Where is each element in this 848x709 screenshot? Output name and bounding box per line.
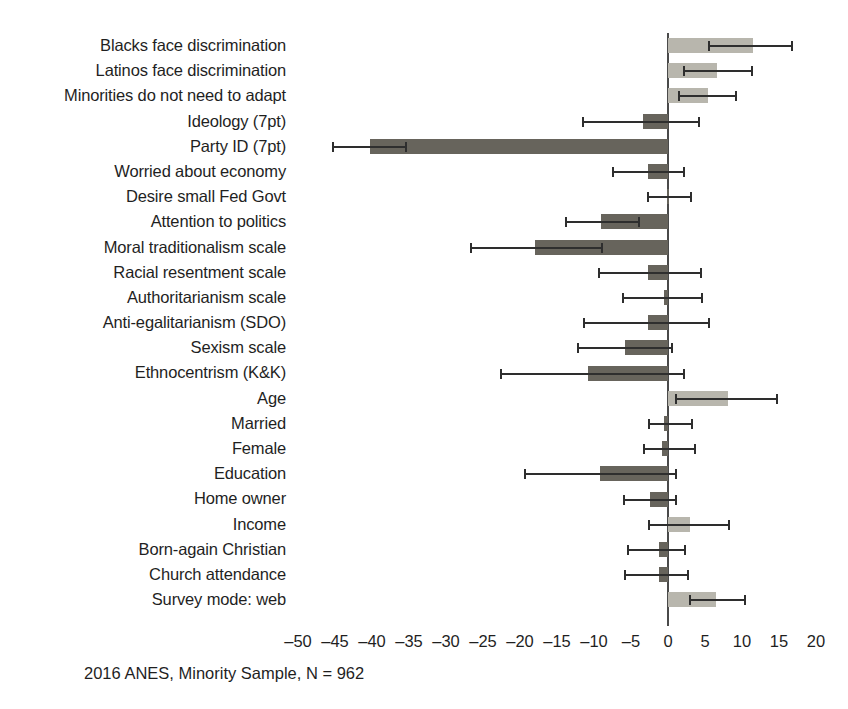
error-bar-cap-high (700, 268, 702, 278)
bar-row (292, 184, 848, 209)
category-label: Ethnocentrism (K&K) (0, 360, 292, 385)
error-bar-cap-high (776, 394, 778, 404)
bar-row (292, 461, 848, 486)
bar (370, 139, 668, 154)
error-bar-cap-high (728, 520, 730, 530)
bar-row (292, 386, 848, 411)
error-bar-cap-low (675, 394, 677, 404)
bar-row (292, 487, 848, 512)
x-axis: –50–45–40–35–30–25–20–15–10–505101520 (292, 625, 848, 659)
category-label: Party ID (7pt) (0, 134, 292, 159)
category-label-column: Blacks face discriminationLatinos face d… (0, 33, 292, 612)
error-bar-cap-low (708, 41, 710, 51)
category-label: Income (0, 512, 292, 537)
bar-row (292, 58, 848, 83)
error-bar (624, 574, 690, 576)
bar-row (292, 310, 848, 335)
bar-row (292, 109, 848, 134)
error-bar (678, 95, 736, 97)
category-label: Racial resentment scale (0, 260, 292, 285)
error-bar (500, 373, 685, 375)
error-bar-cap-low (598, 268, 600, 278)
error-bar-cap-low (648, 419, 650, 429)
category-label: Anti-egalitarianism (SDO) (0, 310, 292, 335)
x-tick-label: –35 (395, 632, 423, 651)
error-bar (648, 524, 730, 526)
bar-row (292, 361, 848, 386)
error-bar (612, 171, 685, 173)
error-bar-cap-low (648, 520, 650, 530)
error-bar (622, 297, 703, 299)
x-tick-label: 20 (807, 632, 825, 651)
error-bar-cap-high (691, 419, 693, 429)
error-bar-cap-high (687, 570, 689, 580)
error-bar-cap-low (647, 192, 649, 202)
category-label: Born-again Christian (0, 537, 292, 562)
category-label: Blacks face discrimination (0, 33, 292, 58)
category-label: Desire small Fed Govt (0, 184, 292, 209)
error-bar-cap-high (690, 192, 692, 202)
bar-row (292, 235, 848, 260)
error-bar-cap-low (689, 595, 691, 605)
error-bar (583, 322, 710, 324)
error-bar (675, 398, 779, 400)
error-bar-cap-low (622, 293, 624, 303)
figure-caption: 2016 ANES, Minority Sample, N = 962 (84, 664, 364, 683)
plot-inner (292, 33, 848, 625)
bar-row (292, 159, 848, 184)
error-bar-cap-high (751, 66, 753, 76)
error-bar (689, 599, 746, 601)
error-bar-cap-high (735, 91, 737, 101)
error-bar (565, 221, 640, 223)
error-bar-cap-high (671, 343, 673, 353)
error-bar (332, 146, 407, 148)
bar-row (292, 134, 848, 159)
category-label: Survey mode: web (0, 587, 292, 612)
bar-row (292, 209, 848, 234)
error-bar (470, 247, 603, 249)
category-label: Latinos face discrimination (0, 58, 292, 83)
error-bar (577, 347, 673, 349)
error-bar (648, 423, 693, 425)
error-bar-cap-high (694, 444, 696, 454)
x-tick-label: –30 (432, 632, 460, 651)
error-bar (623, 499, 677, 501)
bar-row (292, 33, 848, 58)
error-bar-cap-high (708, 318, 710, 328)
error-bar-cap-low (577, 343, 579, 353)
x-tick-label: 5 (700, 632, 709, 651)
error-bar-cap-high (683, 369, 685, 379)
bar-row (292, 83, 848, 108)
error-bar-cap-low (678, 91, 680, 101)
error-bar-cap-low (583, 318, 585, 328)
x-tick-label: –50 (284, 632, 312, 651)
x-tick-label: –40 (358, 632, 386, 651)
error-bar-cap-high (684, 545, 686, 555)
error-bar (598, 272, 702, 274)
error-bar (683, 70, 753, 72)
error-bar-cap-high (698, 117, 700, 127)
bar-row (292, 411, 848, 436)
x-tick-label: –15 (543, 632, 571, 651)
category-label: Married (0, 411, 292, 436)
category-label: Authoritarianism scale (0, 285, 292, 310)
error-bar-cap-high (405, 142, 407, 152)
category-label: Age (0, 386, 292, 411)
bar-row (292, 260, 848, 285)
error-bar-cap-high (638, 217, 640, 227)
error-bar-cap-low (643, 444, 645, 454)
coefficient-plot-figure: Blacks face discriminationLatinos face d… (0, 0, 848, 709)
error-bar-cap-high (601, 243, 603, 253)
bar-row (292, 335, 848, 360)
error-bar-cap-low (470, 243, 472, 253)
error-bar-cap-low (612, 167, 614, 177)
error-bar-cap-low (582, 117, 584, 127)
error-bar-cap-high (791, 41, 793, 51)
error-bar-cap-low (624, 570, 626, 580)
error-bar-cap-low (627, 545, 629, 555)
x-tick-label: 10 (733, 632, 751, 651)
x-tick-label: –45 (321, 632, 349, 651)
category-label: Sexism scale (0, 335, 292, 360)
category-label: Education (0, 461, 292, 486)
error-bar (524, 473, 677, 475)
